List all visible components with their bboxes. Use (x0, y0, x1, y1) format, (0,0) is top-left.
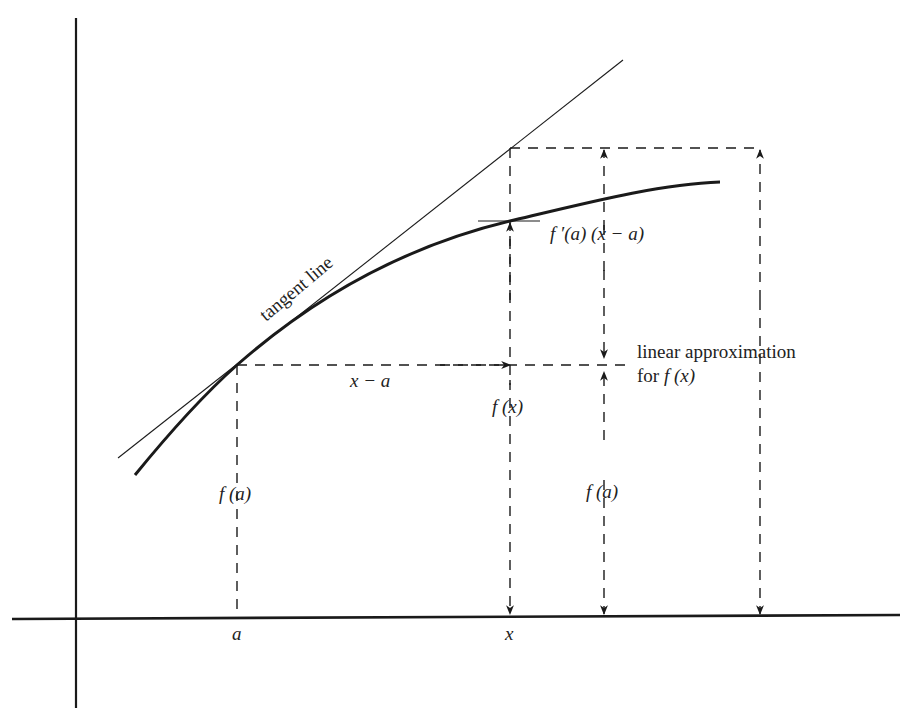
linear-approx-label-line2: for f (x) (637, 365, 695, 387)
f-a-right-label: f (a) (586, 481, 618, 503)
x-axis (12, 615, 900, 619)
axis-tick-a-label: a (232, 623, 242, 644)
linear-approx-func: f (x) (664, 365, 695, 387)
f-a-left-label: f (a) (219, 483, 251, 505)
derivative-term-label: f ′(a) (x − a) (550, 223, 644, 245)
linear-approx-label-line1: linear approximation (637, 341, 796, 362)
x-minus-a-label: x − a (349, 370, 390, 391)
linear-approx-for: for (637, 365, 664, 386)
tangent-line (118, 60, 623, 458)
linear-approximation-diagram: tangent line f ′(a) (x − a) x − a f (x) … (0, 0, 916, 726)
f-x-label: f (x) (492, 396, 523, 418)
tangent-line-label: tangent line (255, 252, 337, 325)
axis-tick-x-label: x (504, 623, 514, 644)
